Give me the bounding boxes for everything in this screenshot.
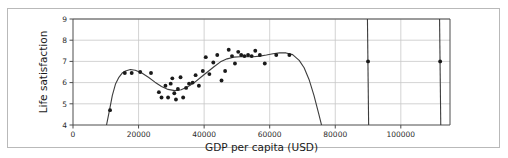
x-tick-label: 20000: [127, 130, 151, 139]
scatter-point: [253, 49, 257, 53]
scatter-point: [157, 90, 161, 94]
scatter-point: [123, 71, 127, 75]
scatter-point: [250, 54, 254, 58]
y-tick-label: 5: [62, 100, 67, 109]
scatter-point: [170, 76, 174, 80]
scatter-point: [220, 79, 224, 83]
scatter-point: [172, 91, 176, 95]
scatter-point: [179, 75, 183, 79]
scatter-point: [243, 54, 247, 58]
scatter-point: [169, 82, 173, 86]
scatter-point: [164, 84, 168, 88]
scatter-point: [223, 69, 227, 73]
scatter-point: [207, 72, 211, 76]
scatter-point: [236, 50, 240, 54]
y-axis-title: Life satisfaction: [37, 31, 49, 114]
scatter-point: [108, 108, 112, 112]
x-tick-label: 0: [71, 130, 76, 139]
scatter-point: [230, 54, 234, 58]
scatter-point: [215, 53, 219, 57]
scatter-point: [197, 84, 201, 88]
y-tick-label: 4: [62, 121, 67, 130]
scatter-point: [233, 62, 237, 66]
scatter-point: [166, 96, 170, 100]
x-tick-label: 100000: [387, 130, 416, 139]
y-tick-label: 8: [62, 36, 67, 45]
scatter-point: [211, 61, 215, 65]
scatter-point: [130, 71, 134, 75]
y-tick-label: 9: [62, 15, 67, 24]
scatter-point: [287, 53, 291, 57]
scatter-point: [366, 59, 370, 63]
scatter-chart: 020000400006000080000100000456789GDP per…: [0, 0, 508, 158]
scatter-point: [174, 98, 178, 102]
scatter-point: [187, 82, 191, 86]
scatter-point: [138, 70, 142, 74]
scatter-point: [246, 53, 250, 57]
x-tick-label: 60000: [258, 130, 282, 139]
scatter-point: [438, 59, 442, 63]
scatter-point: [201, 69, 205, 73]
scatter-point: [263, 62, 267, 66]
scatter-point: [181, 96, 185, 100]
scatter-point: [160, 96, 164, 100]
y-tick-label: 6: [62, 78, 67, 87]
x-tick-label: 40000: [192, 130, 216, 139]
scatter-point: [227, 48, 231, 52]
scatter-point: [191, 81, 195, 85]
x-axis-title: GDP per capita (USD): [205, 141, 318, 153]
scatter-point: [274, 53, 278, 57]
scatter-point: [184, 86, 188, 90]
plot-background: [73, 19, 450, 125]
scatter-point: [239, 53, 243, 57]
y-tick-label: 7: [62, 57, 67, 66]
chart-container: 020000400006000080000100000456789GDP per…: [0, 0, 508, 158]
scatter-point: [194, 73, 198, 77]
x-tick-label: 80000: [323, 130, 347, 139]
scatter-point: [258, 53, 262, 57]
scatter-point: [176, 87, 180, 91]
scatter-point: [149, 71, 153, 75]
scatter-point: [204, 55, 208, 59]
